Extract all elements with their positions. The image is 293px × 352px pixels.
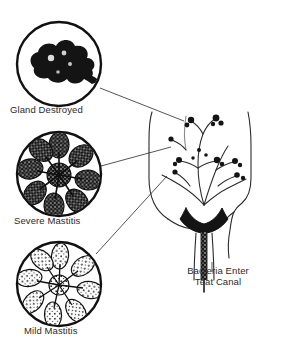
callout-gland-destroyed [17, 22, 101, 106]
gland-void [48, 55, 54, 61]
caption-line-1: Bacteria Enter [168, 265, 268, 276]
gland-void [62, 51, 67, 56]
mastitis-diagram [0, 0, 293, 352]
gland-void [68, 62, 72, 66]
caption-line-2: Teat Canal [168, 276, 268, 287]
caption-severe-mastitis: Severe Mastitis [14, 215, 80, 226]
caption-bacteria-enter-teat-canal: Bacteria Enter Teat Canal [168, 265, 268, 287]
gland-void [56, 70, 60, 74]
caption-gland-destroyed: Gland Destroyed [10, 104, 83, 115]
caption-mild-mastitis: Mild Mastitis [24, 325, 78, 336]
